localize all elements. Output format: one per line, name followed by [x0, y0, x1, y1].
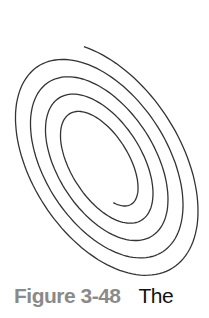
elliptical-spiral	[16, 47, 199, 276]
figure-caption: Figure 3-48The	[14, 284, 173, 308]
spiral-diagram	[0, 0, 209, 280]
figure-label: Figure 3-48	[14, 284, 121, 307]
caption-text: The	[139, 284, 174, 307]
